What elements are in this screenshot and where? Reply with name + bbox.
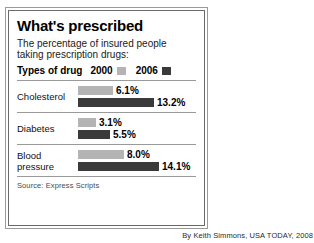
bar-diabetes-2000 (78, 118, 96, 127)
legend-header-label: Types of drug (17, 65, 82, 76)
infographic-frame: What's prescribed The percentage of insu… (5, 7, 208, 229)
legend-item-2006: 2006 (136, 65, 171, 76)
source-note: Source: Express Scripts (17, 177, 196, 190)
bar-value-diabetes-2006: 5.5% (113, 129, 136, 140)
bar-cholesterol-2006 (78, 98, 154, 107)
bar-line-diabetes-2000: 3.1% (78, 117, 196, 128)
chart-row-diabetes: Diabetes 3.1% 5.5% (17, 113, 196, 144)
bar-group-cholesterol: 6.1% 13.2% (78, 84, 196, 109)
page-title: What's prescribed (17, 18, 196, 34)
category-label-cholesterol: Cholesterol (17, 91, 78, 102)
bar-diabetes-2006 (78, 130, 110, 139)
chart-row-cholesterol: Cholesterol 6.1% 13.2% (17, 81, 196, 112)
bar-cholesterol-2000 (78, 86, 113, 95)
infographic-inner-border: What's prescribed The percentage of insu… (8, 10, 205, 226)
bar-line-diabetes-2006: 5.5% (78, 129, 196, 140)
legend-item-2000: 2000 (90, 65, 125, 76)
bar-value-cholesterol-2000: 6.1% (116, 85, 139, 96)
infographic-content: What's prescribed The percentage of insu… (9, 11, 204, 225)
chart-row-blood-pressure: Blood pressure 8.0% 14.1% (17, 145, 196, 176)
bar-line-cholesterol-2000: 6.1% (78, 85, 196, 96)
category-label-diabetes: Diabetes (17, 123, 78, 134)
subtitle-line-1: The percentage of insured people (17, 38, 196, 49)
legend-swatch-2000 (117, 67, 126, 75)
bar-group-diabetes: 3.1% 5.5% (78, 116, 196, 141)
bar-line-cholesterol-2006: 13.2% (78, 97, 196, 108)
bar-value-blood-pressure-2006: 14.1% (162, 161, 190, 172)
chart-legend: Types of drug 2000 2006 (17, 65, 196, 76)
bar-value-blood-pressure-2000: 8.0% (127, 149, 150, 160)
legend-swatch-2006 (162, 67, 171, 75)
subtitle: The percentage of insured people taking … (17, 38, 196, 60)
chart-rows: Cholesterol 6.1% 13.2% Diabete (17, 80, 196, 177)
bar-blood-pressure-2000 (78, 150, 124, 159)
bar-line-blood-pressure-2006: 14.1% (78, 161, 196, 172)
bar-blood-pressure-2006 (78, 162, 159, 171)
bar-value-diabetes-2000: 3.1% (99, 117, 122, 128)
subtitle-line-2: taking prescription drugs: (17, 49, 196, 60)
legend-label-2000: 2000 (90, 65, 112, 76)
bar-line-blood-pressure-2000: 8.0% (78, 149, 196, 160)
bar-group-blood-pressure: 8.0% 14.1% (78, 148, 196, 173)
legend-label-2006: 2006 (136, 65, 158, 76)
bar-value-cholesterol-2006: 13.2% (157, 97, 185, 108)
category-label-blood-pressure: Blood pressure (17, 150, 78, 172)
credit-line: By Keith Simmons, USA TODAY, 2008 (182, 231, 218, 240)
